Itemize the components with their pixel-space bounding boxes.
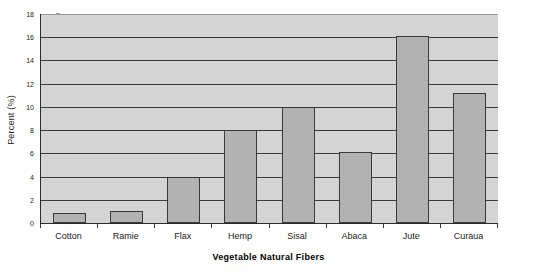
x-tick-label: Flax <box>154 229 211 245</box>
x-tick-label: Abaca <box>326 229 383 245</box>
bar-slot <box>98 14 155 223</box>
y-tick-label: 14 <box>26 57 34 64</box>
x-tick-label: Cotton <box>40 229 97 245</box>
x-tick-mark <box>269 224 270 228</box>
x-tick-mark <box>383 224 384 228</box>
x-axis-tick-labels: CottonRamieFlaxHempSisalAbacaJuteCuraua <box>40 229 497 245</box>
y-tick-label: 16 <box>26 34 34 41</box>
x-tick-label: Jute <box>383 229 440 245</box>
x-tick-mark <box>40 224 41 228</box>
x-axis-title: Vegetable Natural Fibers <box>40 252 497 262</box>
y-tick-label: 2 <box>30 196 34 203</box>
x-tick-label: Ramie <box>97 229 154 245</box>
y-axis-title-label: Percent (%) <box>6 95 16 145</box>
bar-ramie[interactable] <box>110 211 143 223</box>
y-tick-label: 18 <box>26 11 34 18</box>
y-tick-label: 4 <box>30 173 34 180</box>
bar-slot <box>41 14 98 223</box>
x-tick-mark <box>97 224 98 228</box>
bar-slot <box>384 14 441 223</box>
y-tick-label: 10 <box>26 103 34 110</box>
bar-slot <box>327 14 384 223</box>
y-tick-label: 0 <box>30 220 34 227</box>
bars-layer <box>41 14 498 223</box>
bar-jute[interactable] <box>396 36 429 223</box>
y-axis-tick-labels: 024681012141618 <box>20 14 36 223</box>
y-tick-label: 12 <box>26 80 34 87</box>
bar-curaua[interactable] <box>453 93 486 223</box>
y-tick-label: 6 <box>30 150 34 157</box>
x-axis-tick-marks <box>40 224 497 228</box>
x-tick-label: Sisal <box>269 229 326 245</box>
bar-abaca[interactable] <box>339 152 372 223</box>
x-tick-mark <box>497 224 498 228</box>
bar-sisal[interactable] <box>282 107 315 223</box>
bar-slot <box>270 14 327 223</box>
x-tick-label: Curaua <box>440 229 497 245</box>
x-tick-mark <box>440 224 441 228</box>
bar-hemp[interactable] <box>224 130 257 223</box>
x-tick-mark <box>154 224 155 228</box>
bar-cotton[interactable] <box>53 213 86 223</box>
bar-slot <box>441 14 498 223</box>
y-tick-label: 8 <box>30 127 34 134</box>
x-tick-mark <box>211 224 212 228</box>
bar-slot <box>212 14 269 223</box>
bar-slot <box>155 14 212 223</box>
y-axis-title: Percent (%) <box>0 0 22 240</box>
x-tick-label: Hemp <box>211 229 268 245</box>
bar-flax[interactable] <box>167 177 200 223</box>
x-tick-mark <box>326 224 327 228</box>
bar-chart: Percent (%) 024681012141618 CottonRamieF… <box>0 0 541 279</box>
plot-area <box>40 14 498 224</box>
